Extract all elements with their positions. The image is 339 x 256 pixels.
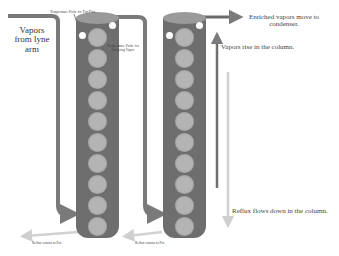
plate [88,70,107,89]
plate [175,91,194,110]
plate [88,175,107,194]
temperature-probe-outgoing-vapor [109,22,116,29]
reflux-flows-down-label: Reflux flows down in the column. [232,208,339,215]
probe-top-plate-label: Temperature Probe for Top Plate [38,11,108,15]
enriched-vapors-label: Enriched vapors move to condenser. [239,14,329,29]
temperature-probe [166,32,173,39]
temperature-probe [196,22,203,29]
plate [88,133,107,152]
plate [88,112,107,131]
reflux-return-arrow-right [128,232,162,236]
reflux-return-arrow-left [26,232,78,236]
reflux-returns-label-left: Reflux returns to Pot [32,242,82,246]
plate [175,175,194,194]
reflux-returns-label-right: Reflux returns to Pot [135,242,185,246]
probe-outgoing-vapor-label: Temperature Probe for Outgoing Vapor [106,45,140,52]
plate [175,70,194,89]
distillation-column-right [163,18,206,238]
vapors-from-lyne-arm-label: Vapors from lyne arm [14,26,50,54]
plate [88,49,107,68]
plate [88,28,107,47]
plate [175,217,194,236]
plate [175,133,194,152]
plate [88,91,107,110]
plate [175,112,194,131]
plate [175,49,194,68]
plate [175,154,194,173]
plate [175,196,194,215]
plate [88,154,107,173]
temperature-probe-top-plate [79,32,86,39]
vapors-rise-label: Vapors rise in the column. [221,44,331,51]
plate [88,217,107,236]
plate [175,28,194,47]
plate [88,196,107,215]
